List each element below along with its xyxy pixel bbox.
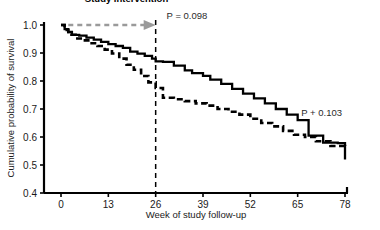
- x-tick-label: 0: [58, 199, 64, 210]
- x-tick-label: 78: [339, 199, 351, 210]
- y-tick-label-group: 1.00.90.80.70.60.50.4: [23, 20, 37, 199]
- study-intervention-label: Study intervention: [85, 0, 169, 4]
- y-axis-title: Cumulative probability of survival: [5, 39, 16, 178]
- x-tick-label: 52: [245, 199, 257, 210]
- x-tick-label: 65: [292, 199, 304, 210]
- x-tick-label: 13: [103, 199, 115, 210]
- y-tick-label: 0.5: [23, 160, 37, 171]
- survival-curve-solid-curve: [61, 25, 345, 159]
- y-tick-label: 0.9: [23, 48, 37, 59]
- kaplan-meier-plot: 1.00.90.80.70.60.50.4 0132639526578 Stud…: [0, 0, 380, 230]
- y-tick-label: 0.6: [23, 132, 37, 143]
- chart-figure: 1.00.90.80.70.60.50.4 0132639526578 Stud…: [0, 0, 380, 230]
- survival-curve-dashed-curve: [61, 25, 345, 147]
- p-value-right: P + 0.103: [301, 107, 342, 118]
- y-tick-label: 0.7: [23, 104, 37, 115]
- y-tick-label: 0.4: [23, 188, 37, 199]
- annotation-arrow-group: [68, 20, 155, 30]
- y-tick-label: 0.8: [23, 76, 37, 87]
- x-axis-title: Week of study follow-up: [146, 209, 247, 220]
- y-tick-label: 1.0: [23, 20, 37, 31]
- intervention-arrow-head: [144, 20, 156, 30]
- survival-curves-group: [61, 25, 345, 159]
- p-value-top: P = 0.098: [167, 10, 208, 21]
